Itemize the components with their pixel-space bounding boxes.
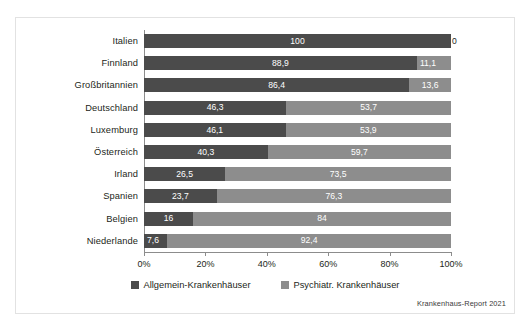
bar-row: Großbritannien86,413,6 [144,74,451,96]
bar-value-label: 100 [290,37,304,46]
category-label: Italien [112,36,138,46]
bar-value-label: 26,5 [176,170,193,179]
axis-tick [390,252,391,256]
bar-segment-psychiatr: 53,9 [286,123,451,137]
stacked-bar: 40,359,7 [144,145,451,159]
bar-value-label: 59,7 [351,148,368,157]
stacked-bar: 86,413,6 [144,78,451,92]
bar-segment-allgemein: 7,6 [144,234,167,248]
axis-tick-label: 100% [439,259,462,269]
chart-legend: Allgemein-Krankenhäuser Psychiatr. Krank… [16,280,514,290]
category-label: Irland [114,169,138,179]
bar-value-label: 23,7 [172,192,189,201]
bar-segment-allgemein: 86,4 [144,78,409,92]
bar-row: Belgien1684 [144,208,451,230]
category-label: Deutschland [85,103,138,113]
chart-figure: Italien1000Finnland88,911,1Großbritannie… [15,17,515,314]
axis-tick [451,252,452,256]
bar-value-label: 13,6 [422,81,439,90]
bar-value-label: 16 [164,214,174,223]
bar-segment-psychiatr: 11,1 [417,56,451,70]
legend-item-allgemein: Allgemein-Krankenhäuser [131,280,251,290]
bar-segment-allgemein: 46,1 [144,123,286,137]
bar-segment-allgemein: 40,3 [144,145,268,159]
bar-row: Niederlande7,692,4 [144,230,451,252]
bar-value-label: 11,1 [420,59,436,68]
bar-row: Luxemburg46,153,9 [144,119,451,141]
bar-value-label: 76,3 [326,192,343,201]
plot-area: Italien1000Finnland88,911,1Großbritannie… [144,30,451,252]
axis-tick [144,252,145,256]
bar-value-label: 86,4 [268,81,285,90]
bar-value-label: 46,3 [207,103,224,112]
bar-value-label: 92,4 [301,236,318,245]
stacked-bar: 26,573,5 [144,167,451,181]
stacked-bar: 7,692,4 [144,234,451,248]
legend-label-psychiatr: Psychiatr. Krankenhäuser [294,280,400,290]
legend-swatch-icon-allgemein [131,281,139,289]
bar-segment-allgemein: 100 [144,34,451,48]
axis-tick-label: 80% [381,259,399,269]
bar-segment-psychiatr: 59,7 [268,145,451,159]
stacked-bar: 1684 [144,212,451,226]
bar-value-label: 7,6 [147,236,159,245]
bar-segment-psychiatr: 92,4 [167,234,451,248]
legend-swatch-icon-psychiatr [281,281,289,289]
stacked-bar: 1000 [144,34,451,48]
bar-segment-allgemein: 46,3 [144,101,286,115]
bar-value-label: 53,7 [360,103,377,112]
bar-segment-psychiatr: 73,5 [225,167,451,181]
bar-segment-allgemein: 88,9 [144,56,417,70]
bar-segment-psychiatr: 84 [193,212,451,226]
legend-label-allgemein: Allgemein-Krankenhäuser [144,280,251,290]
category-label: Finnland [102,58,138,68]
category-label: Spanien [103,191,138,201]
axis-tick-label: 60% [319,259,337,269]
category-label: Österreich [94,147,138,157]
bar-value-label: 73,5 [330,170,347,179]
axis-tick [205,252,206,256]
bar-row: Italien1000 [144,30,451,52]
axis-tick [267,252,268,256]
value-axis-line: 0%20%40%60%80%100% [144,252,451,253]
axis-tick-label: 40% [258,259,276,269]
category-label: Niederlande [87,236,138,246]
axis-tick-label: 20% [196,259,214,269]
bar-value-label: 53,9 [360,126,377,135]
bar-value-label: 46,1 [206,126,223,135]
bar-segment-psychiatr: 76,3 [217,189,451,203]
bar-segment-allgemein: 26,5 [144,167,225,181]
category-label: Luxemburg [91,125,138,135]
bar-segment-allgemein: 16 [144,212,193,226]
bar-value-label: 40,3 [197,148,214,157]
stacked-bar: 46,153,9 [144,123,451,137]
bar-segment-psychiatr: 53,7 [286,101,451,115]
bar-row: Österreich40,359,7 [144,141,451,163]
category-label: Belgien [106,214,138,224]
category-label: Großbritannien [75,80,138,90]
bar-segment-psychiatr: 13,6 [409,78,451,92]
axis-tick-label: 0% [137,259,150,269]
bar-value-label: 84 [317,214,327,223]
bar-segment-allgemein: 23,7 [144,189,217,203]
axis-tick [328,252,329,256]
source-note: Krankenhaus-Report 2021 [417,299,506,308]
stacked-bar: 23,776,3 [144,189,451,203]
bar-value-label: 88,9 [272,59,289,68]
bar-row: Deutschland46,353,7 [144,97,451,119]
stacked-bar: 46,353,7 [144,101,451,115]
legend-item-psychiatr: Psychiatr. Krankenhäuser [281,280,400,290]
bar-row: Irland26,573,5 [144,163,451,185]
stacked-bar: 88,911,1 [144,56,451,70]
bar-value-label: 0 [452,37,457,46]
bar-row: Spanien23,776,3 [144,185,451,207]
bar-row: Finnland88,911,1 [144,52,451,74]
